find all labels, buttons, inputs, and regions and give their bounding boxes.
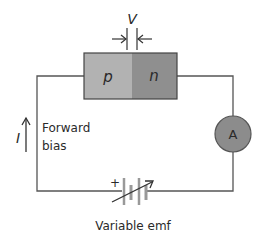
bias-label-line1: Forward (42, 121, 90, 135)
battery-label: Variable emf (95, 219, 171, 233)
circuit-diagram: p n V A I Forward bias + Variable emf (0, 0, 263, 243)
depletion-width-marker (112, 28, 152, 50)
voltage-label: V (127, 11, 138, 27)
n-label: n (149, 67, 159, 85)
p-label: p (102, 68, 113, 86)
ammeter: A (215, 116, 251, 152)
battery-plus-label: + (110, 176, 120, 190)
current-label: I (16, 130, 20, 146)
current-arrow-icon (22, 118, 30, 152)
ammeter-label: A (229, 127, 238, 142)
pn-junction-diode: p n (84, 53, 177, 99)
bias-label-line2: bias (42, 139, 67, 153)
